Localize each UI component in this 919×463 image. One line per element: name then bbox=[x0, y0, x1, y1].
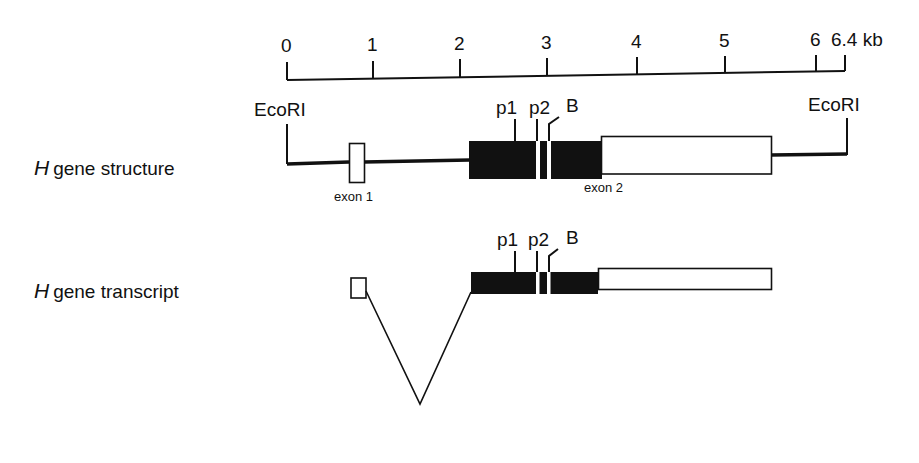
scale-label-5: 5 bbox=[719, 30, 730, 51]
exon-1-box bbox=[350, 144, 365, 183]
transcript-p1-label: p1 bbox=[497, 229, 518, 250]
exon-1-label: exon 1 bbox=[334, 189, 373, 204]
p2-label: p2 bbox=[529, 97, 550, 118]
b-marker-line bbox=[549, 117, 559, 141]
scale-label-end: 6.4 kb bbox=[831, 29, 883, 50]
gene-transcript: p1 p2 B bbox=[351, 227, 772, 404]
splice-junction-line bbox=[366, 291, 471, 404]
scale-bar bbox=[287, 55, 845, 80]
b-gap bbox=[547, 141, 551, 179]
scale-label-6: 6 bbox=[810, 29, 821, 50]
scale-label-4: 4 bbox=[631, 31, 642, 52]
flanking-line-right bbox=[771, 154, 847, 155]
exon-2-utr-region bbox=[602, 137, 772, 175]
ecori-right-label: EcoRI bbox=[808, 94, 860, 115]
scale-label-1: 1 bbox=[367, 34, 378, 55]
transcript-b-label: B bbox=[566, 227, 579, 248]
transcript-b-marker-line bbox=[549, 249, 558, 272]
transcript-coding-region bbox=[471, 272, 598, 294]
gene-diagram: 0 1 2 3 4 5 6 6.4 kb EcoRI EcoRI exon 1 … bbox=[0, 0, 919, 463]
transcript-p2-gap bbox=[536, 272, 540, 294]
intron-line-left bbox=[287, 162, 349, 164]
scale-label-2: 2 bbox=[454, 33, 465, 54]
intron-line-1 bbox=[364, 160, 470, 162]
transcript-p2-label: p2 bbox=[528, 229, 549, 250]
scale-label-0: 0 bbox=[281, 35, 292, 56]
exon-2-coding-region bbox=[469, 141, 602, 179]
scale-tick-labels: 0 1 2 3 4 5 6 6.4 kb bbox=[281, 29, 883, 56]
scale-axis-line bbox=[287, 71, 845, 80]
p2-gap bbox=[536, 141, 540, 179]
ecori-left-label: EcoRI bbox=[254, 99, 306, 120]
p1-label: p1 bbox=[496, 97, 517, 118]
transcript-b-gap bbox=[547, 272, 551, 294]
transcript-utr-region bbox=[599, 269, 772, 290]
gene-structure: EcoRI EcoRI exon 1 exon 2 p1 p2 B bbox=[254, 94, 860, 204]
transcript-exon-1-box bbox=[351, 278, 366, 298]
exon-2-label: exon 2 bbox=[584, 180, 623, 195]
b-label: B bbox=[566, 95, 579, 116]
scale-label-3: 3 bbox=[541, 32, 552, 53]
